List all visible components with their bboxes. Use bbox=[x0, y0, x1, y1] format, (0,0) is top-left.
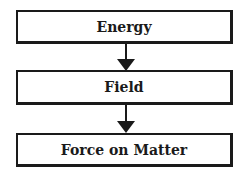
node-label: Field bbox=[104, 79, 143, 95]
node-energy: Energy bbox=[16, 10, 233, 44]
node-label: Energy bbox=[96, 19, 151, 35]
arrow-field-to-force bbox=[123, 105, 129, 133]
arrow-energy-to-field bbox=[123, 44, 129, 71]
node-field: Field bbox=[16, 70, 233, 105]
node-force-on-matter: Force on Matter bbox=[16, 133, 233, 167]
node-label: Force on Matter bbox=[61, 142, 187, 158]
